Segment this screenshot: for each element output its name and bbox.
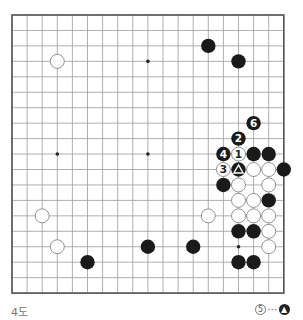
white-stone [50, 54, 64, 68]
move-number: 2 [235, 132, 242, 144]
black-stone-6: 6 [246, 116, 260, 130]
white-stone [262, 163, 276, 177]
white-stone-1: 1 [232, 147, 246, 161]
white-stone [262, 224, 276, 238]
go-board: 62413 [0, 0, 303, 300]
move-number: 3 [220, 163, 227, 175]
black-stone [262, 147, 276, 161]
note-separator: ··· [267, 303, 278, 316]
move-note: 5 ··· ▲ [255, 303, 290, 316]
move-number: 6 [250, 117, 257, 129]
white-stone-3: 3 [216, 163, 230, 177]
move-number: 4 [220, 148, 227, 160]
star-point [56, 152, 60, 156]
white-stone [247, 209, 261, 223]
white-stone [232, 193, 246, 207]
white-stone [247, 193, 261, 207]
move-number: 1 [235, 148, 242, 160]
white-stone-5-icon: 5 [255, 304, 266, 315]
black-stone [246, 224, 260, 238]
black-stone [262, 193, 276, 207]
black-stone-4: 4 [216, 147, 230, 161]
black-stone [141, 240, 155, 254]
white-stone [262, 209, 276, 223]
black-stone [231, 54, 245, 68]
black-stone [201, 39, 215, 53]
black-stone [186, 240, 200, 254]
white-stone [50, 240, 64, 254]
star-point [146, 60, 150, 64]
black-stone [80, 255, 94, 269]
black-stone-2: 2 [231, 131, 245, 145]
black-stone [231, 255, 245, 269]
black-stone [231, 224, 245, 238]
black-stone-triangle [231, 162, 245, 176]
black-stone [277, 162, 291, 176]
diagram-title: 4도 [11, 303, 28, 319]
black-stone [216, 178, 230, 192]
white-stone [232, 178, 246, 192]
black-triangle-stone-icon: ▲ [279, 304, 290, 315]
white-stone [262, 240, 276, 254]
white-stone [201, 209, 215, 223]
white-stone [247, 163, 261, 177]
black-stone [246, 147, 260, 161]
star-point [237, 245, 241, 249]
white-stone [262, 178, 276, 192]
white-stone [232, 209, 246, 223]
black-stone [246, 255, 260, 269]
white-stone [35, 209, 49, 223]
star-point [146, 152, 150, 156]
